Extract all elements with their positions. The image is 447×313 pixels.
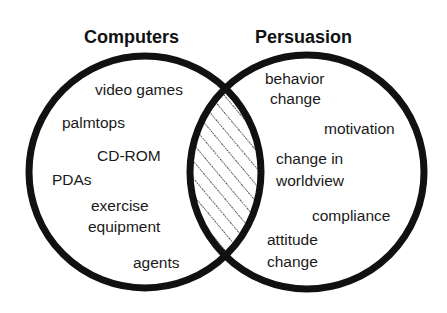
persuasion-title: Persuasion [255,27,352,47]
item-video-games: video games [95,81,183,98]
item-change-in: change in [276,150,343,167]
item-pdas: PDAs [52,171,92,188]
item-compliance: compliance [312,207,390,224]
item-attitude-change: change [267,253,318,270]
venn-diagram: Computers Persuasion video games palmtop… [0,0,447,313]
item-agents: agents [133,254,180,271]
item-palmtops: palmtops [62,114,125,131]
item-equipment: equipment [88,218,161,235]
item-exercise: exercise [91,197,149,214]
computers-title: Computers [84,27,179,47]
item-behavior: behavior [265,70,324,87]
item-behavior-change: change [270,90,321,107]
item-cd-rom: CD-ROM [97,147,161,164]
item-worldview: worldview [275,172,345,189]
item-motivation: motivation [324,120,395,137]
item-attitude: attitude [267,231,318,248]
